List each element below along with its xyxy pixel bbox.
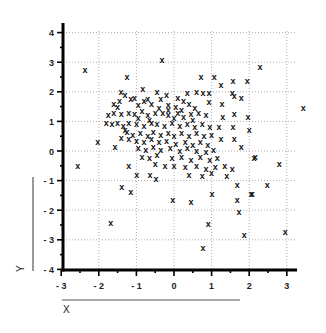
data-point-marker: x bbox=[301, 103, 306, 113]
data-point-marker: x bbox=[147, 115, 152, 125]
data-point-marker: x bbox=[265, 180, 270, 190]
x-tick-label: - 3 bbox=[56, 281, 67, 291]
data-point-marker: x bbox=[115, 102, 120, 112]
data-point-marker: x bbox=[175, 93, 180, 103]
y-tick-label: - 1 bbox=[43, 176, 54, 186]
data-point-marker: x bbox=[188, 155, 193, 165]
data-point-marker: x bbox=[232, 91, 237, 101]
data-point-marker: x bbox=[212, 72, 217, 82]
data-point-marker: x bbox=[171, 113, 176, 123]
data-point-marker: x bbox=[147, 170, 152, 180]
data-point-marker: x bbox=[153, 159, 158, 169]
data-point-marker: x bbox=[224, 171, 229, 181]
data-point-marker: x bbox=[194, 87, 199, 97]
data-point-marker: x bbox=[232, 109, 237, 119]
data-point-marker: x bbox=[231, 76, 236, 86]
data-point-marker: x bbox=[220, 99, 225, 109]
data-point-marker: x bbox=[283, 227, 288, 237]
data-point-marker: x bbox=[277, 159, 282, 169]
data-point-marker: x bbox=[245, 76, 250, 86]
x-tick-label: - 1 bbox=[131, 281, 142, 291]
data-point-marker: x bbox=[82, 65, 87, 75]
data-point-marker: x bbox=[239, 142, 244, 152]
data-point-marker: x bbox=[134, 170, 139, 180]
data-point-marker: x bbox=[200, 119, 205, 129]
x-tick-label: - 2 bbox=[94, 281, 105, 291]
data-point-marker: x bbox=[164, 90, 169, 100]
data-point-marker: x bbox=[239, 93, 244, 103]
data-point-marker: x bbox=[217, 122, 222, 132]
data-point-marker: x bbox=[190, 115, 195, 125]
x-axis-title: X bbox=[63, 304, 70, 315]
data-point-marker: x bbox=[145, 94, 150, 104]
data-point-marker: x bbox=[230, 164, 235, 174]
data-point-marker: x bbox=[168, 143, 173, 153]
data-point-marker: x bbox=[231, 122, 236, 132]
data-point-marker: x bbox=[187, 99, 192, 109]
x-tick-label: 3 bbox=[284, 281, 289, 291]
data-point-marker: x bbox=[112, 142, 117, 152]
y-tick-label: 2 bbox=[49, 87, 54, 97]
data-point-marker: x bbox=[235, 180, 240, 190]
y-tick-label: 0 bbox=[49, 147, 54, 157]
y-tick-label: - 3 bbox=[43, 235, 54, 245]
data-point-marker: x bbox=[218, 134, 223, 144]
data-point-marker: x bbox=[147, 153, 152, 163]
data-point-marker: x bbox=[171, 161, 176, 171]
y-tick-label: 3 bbox=[49, 58, 54, 68]
data-point-marker: x bbox=[185, 119, 190, 129]
data-point-marker: x bbox=[206, 97, 211, 107]
data-point-marker: x bbox=[185, 88, 190, 98]
data-point-marker: x bbox=[194, 161, 199, 171]
data-point-marker: x bbox=[166, 105, 171, 115]
data-point-marker: x bbox=[126, 108, 131, 118]
scatter-plot: xxxxxxxxxxxxxxxxxxxxxxxxxxxxxxxxxxxxxxxx… bbox=[0, 0, 326, 333]
data-point-marker: x bbox=[242, 230, 247, 240]
y-tick-label: 1 bbox=[49, 117, 54, 127]
data-point-marker: x bbox=[124, 72, 129, 82]
data-point-marker: x bbox=[250, 189, 255, 199]
data-point-marker: x bbox=[104, 118, 109, 128]
data-point-marker: x bbox=[209, 130, 214, 140]
data-point-marker: x bbox=[123, 125, 128, 135]
x-tick-label: 2 bbox=[247, 281, 252, 291]
data-point-marker: x bbox=[128, 187, 133, 197]
data-point-marker: x bbox=[140, 152, 145, 162]
data-point-marker: x bbox=[170, 195, 175, 205]
data-point-marker: x bbox=[187, 170, 192, 180]
data-point-marker: x bbox=[140, 84, 145, 94]
data-point-marker: x bbox=[115, 118, 120, 128]
data-point-marker: x bbox=[179, 105, 184, 115]
data-point-marker: x bbox=[246, 112, 251, 122]
x-tick-label: 0 bbox=[171, 281, 176, 291]
data-point-marker: x bbox=[126, 161, 131, 171]
data-point-marker: x bbox=[185, 143, 190, 153]
data-point-marker: x bbox=[218, 80, 223, 90]
data-point-marker: x bbox=[209, 168, 214, 178]
data-points: xxxxxxxxxxxxxxxxxxxxxxxxxxxxxxxxxxxxxxxx… bbox=[75, 55, 306, 252]
data-point-marker: x bbox=[109, 119, 114, 129]
data-point-marker: x bbox=[252, 153, 257, 163]
data-point-marker: x bbox=[136, 100, 141, 110]
data-point-marker: x bbox=[196, 108, 201, 118]
data-point-marker: x bbox=[136, 113, 141, 123]
data-point-marker: x bbox=[156, 103, 161, 113]
data-point-marker: x bbox=[258, 62, 263, 72]
data-point-marker: x bbox=[153, 174, 158, 184]
data-point-marker: x bbox=[209, 189, 214, 199]
y-tick-label: - 4 bbox=[43, 265, 54, 275]
data-point-marker: x bbox=[188, 197, 193, 207]
data-point-marker: x bbox=[119, 182, 124, 192]
data-point-marker: x bbox=[126, 134, 131, 144]
data-point-marker: x bbox=[247, 125, 252, 135]
data-point-marker: x bbox=[200, 243, 205, 253]
data-point-marker: x bbox=[159, 55, 164, 65]
data-point-marker: x bbox=[222, 161, 227, 171]
data-point-marker: x bbox=[232, 134, 237, 144]
data-point-marker: x bbox=[199, 72, 204, 82]
y-axis-title: Y bbox=[15, 265, 26, 272]
data-point-marker: x bbox=[200, 88, 205, 98]
data-point-marker: x bbox=[220, 112, 225, 122]
data-point-marker: x bbox=[179, 152, 184, 162]
data-point-marker: x bbox=[95, 137, 100, 147]
